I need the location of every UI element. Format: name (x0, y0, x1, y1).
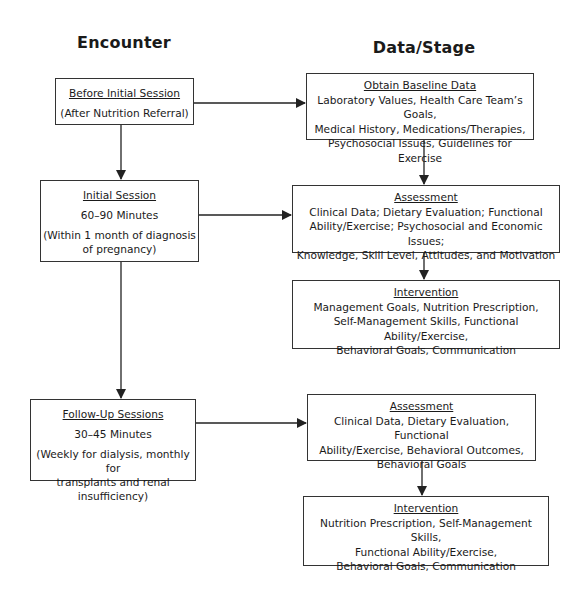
box-title: Follow-Up Sessions (31, 407, 195, 421)
box-title: Assessment (293, 190, 559, 205)
box-title: Intervention (293, 285, 559, 300)
box-body: Clinical Data, Dietary Evaluation, Funct… (308, 414, 535, 472)
obtain-baseline-data-box: Obtain Baseline Data Laboratory Values, … (306, 73, 534, 140)
box-body: Nutrition Prescription, Self-Management … (304, 516, 548, 574)
box-duration: 60–90 Minutes (41, 208, 198, 222)
box-title: Obtain Baseline Data (307, 78, 533, 93)
box-title: Before Initial Session (56, 86, 193, 100)
box-title: Initial Session (41, 188, 198, 202)
follow-up-intervention-box: Intervention Nutrition Prescription, Sel… (303, 496, 549, 566)
follow-up-assessment-box: Assessment Clinical Data, Dietary Evalua… (307, 394, 536, 461)
box-detail: (Within 1 month of diagnosis of pregnanc… (41, 228, 198, 256)
box-body: Clinical Data; Dietary Evaluation; Funct… (293, 205, 559, 263)
box-body: Management Goals, Nutrition Prescription… (293, 300, 559, 358)
before-initial-session-box: Before Initial Session (After Nutrition … (55, 78, 194, 125)
box-duration: 30–45 Minutes (31, 427, 195, 441)
box-detail: (Weekly for dialysis, monthly for transp… (31, 447, 195, 503)
initial-session-box: Initial Session 60–90 Minutes (Within 1 … (40, 180, 199, 262)
initial-assessment-box: Assessment Clinical Data; Dietary Evalua… (292, 185, 560, 253)
initial-intervention-box: Intervention Management Goals, Nutrition… (292, 280, 560, 349)
follow-up-sessions-box: Follow-Up Sessions 30–45 Minutes (Weekly… (30, 399, 196, 481)
box-detail: (After Nutrition Referral) (56, 106, 193, 120)
box-title: Intervention (304, 501, 548, 516)
box-title: Assessment (308, 399, 535, 414)
box-body: Laboratory Values, Health Care Team’s Go… (307, 93, 533, 166)
